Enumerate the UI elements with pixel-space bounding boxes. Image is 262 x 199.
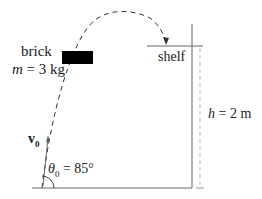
brick-label: brick <box>21 44 52 58</box>
mass-value: = 3 kg <box>23 61 65 77</box>
trajectory-arrowhead-icon <box>163 37 169 45</box>
velocity-symbol: v <box>28 131 35 146</box>
shelf-label: shelf <box>158 50 185 64</box>
velocity-label: v0 <box>28 132 40 151</box>
angle-variable: θ <box>48 161 55 176</box>
height-label: h = 2 m <box>208 107 251 121</box>
angle-label: θ0 = 85° <box>48 162 94 181</box>
mass-label: m = 3 kg <box>12 62 65 76</box>
height-value: = 2 m <box>215 106 251 121</box>
diagram-canvas <box>0 0 262 199</box>
angle-value: = 85° <box>59 161 94 176</box>
velocity-arrowhead-icon <box>46 135 50 142</box>
mass-variable: m <box>12 61 23 77</box>
velocity-subscript: 0 <box>35 139 40 149</box>
brick-block <box>62 51 93 64</box>
height-variable: h <box>208 106 215 121</box>
